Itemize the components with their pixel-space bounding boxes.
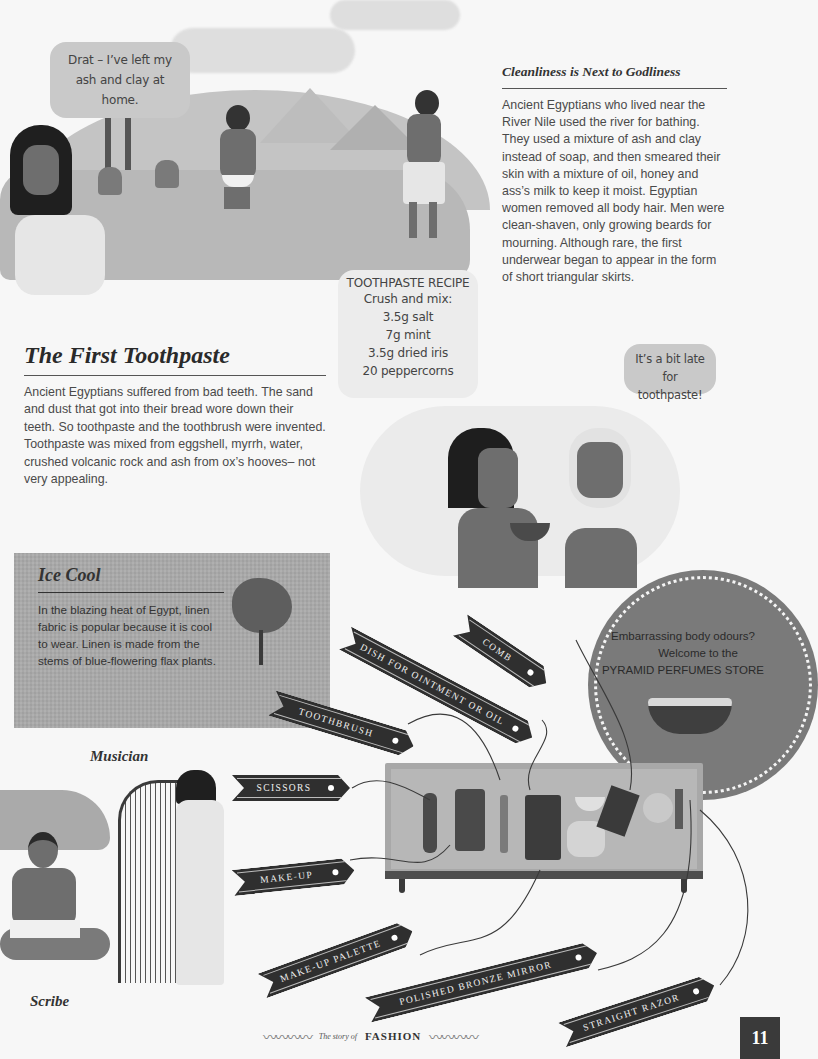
- footer-prefix: The story of: [319, 1032, 357, 1041]
- page-number: 11: [740, 1017, 780, 1059]
- musician-label: Musician: [90, 748, 148, 765]
- footer: 〰〰〰〰 The story of FASHION 〰〰〰〰: [250, 1026, 490, 1046]
- musician-figure: [118, 770, 228, 985]
- harp-icon: [118, 780, 181, 983]
- scribe-figure: [0, 832, 115, 972]
- squiggle-ornament: 〰〰〰〰: [263, 1026, 311, 1046]
- scribe-label: Scribe: [30, 993, 69, 1010]
- footer-title: FASHION: [365, 1030, 421, 1042]
- squiggle-ornament: 〰〰〰〰: [429, 1026, 477, 1046]
